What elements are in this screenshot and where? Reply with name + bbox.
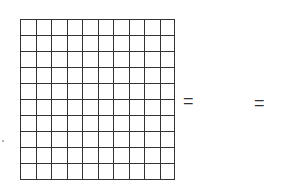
equals-sign-2: = [254, 94, 265, 112]
stray-mark [2, 140, 4, 142]
hundred-grid [20, 19, 175, 180]
equals-sign-1: = [183, 92, 194, 110]
